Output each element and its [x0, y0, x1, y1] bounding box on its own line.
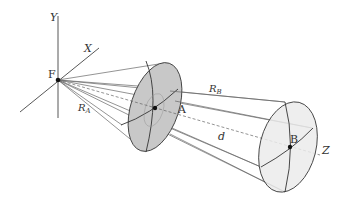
label-z-axis: Z	[321, 144, 330, 157]
diagram-svg: Y X F RA A RB d B Z	[0, 0, 347, 205]
point-f	[56, 78, 61, 83]
point-a	[153, 106, 157, 110]
label-point-a: A	[177, 103, 187, 116]
label-distance-d: d	[218, 130, 225, 143]
label-radius-a: RA	[77, 102, 91, 115]
label-point-b: B	[290, 133, 298, 146]
label-x-axis: X	[83, 42, 93, 55]
label-origin-f: F	[48, 68, 56, 81]
diagram-canvas: Y X F RA A RB d B Z	[0, 0, 347, 205]
label-radius-b: RB	[208, 83, 222, 96]
